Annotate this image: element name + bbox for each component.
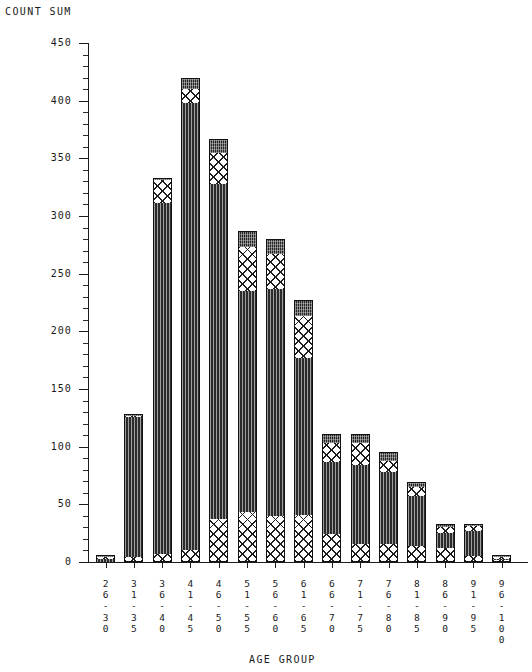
bar-segment-hatch (294, 316, 313, 358)
bar-36-40[interactable] (153, 178, 172, 562)
bar-segment-cap (124, 414, 143, 416)
bar-segment-hatch (492, 560, 511, 562)
bar-71-75[interactable] (351, 434, 370, 562)
x-label-char: - (323, 600, 341, 611)
bar-56-60[interactable] (266, 239, 285, 562)
y-tick-label: 300 (28, 210, 72, 221)
bar-segment-cap (266, 239, 285, 254)
y-tick-major (79, 447, 88, 448)
x-label-char: 2 (97, 578, 115, 589)
y-tick-label: 150 (28, 383, 72, 394)
bar-86-90[interactable] (436, 524, 455, 562)
bar-segment-hatch (436, 527, 455, 533)
x-tick (106, 563, 107, 568)
x-label-char: 7 (380, 578, 398, 589)
bar-46-50[interactable] (209, 139, 228, 562)
y-tick-major (79, 158, 88, 159)
x-tick (332, 563, 333, 568)
x-label-char: - (464, 600, 482, 611)
bar-81-85[interactable] (407, 482, 426, 562)
bar-26-30[interactable] (96, 556, 115, 562)
x-tick-label: 66-70 (323, 578, 341, 634)
bar-segment-dark (124, 417, 143, 558)
y-tick-label: 0 (28, 556, 72, 567)
x-tick (502, 563, 503, 568)
bar-segment-cap (153, 178, 172, 180)
bar-segment-hatch (407, 546, 426, 562)
y-tick-major (79, 274, 88, 275)
bar-segment-dark (266, 289, 285, 516)
x-label-char: 5 (238, 578, 256, 589)
x-tick-label: 61-65 (295, 578, 313, 634)
bar-segment-hatch (209, 153, 228, 184)
x-tick-label: 91-95 (464, 578, 482, 634)
y-tick-major (79, 389, 88, 390)
bar-segment-hatch (322, 534, 341, 562)
bar-segment-hatch (238, 247, 257, 291)
bar-66-70[interactable] (322, 434, 341, 562)
y-tick-label: 50 (28, 498, 72, 509)
x-tick-label: 96-100 (493, 578, 511, 645)
bar-segment-hatch (209, 519, 228, 562)
x-label-char: 5 (408, 623, 426, 634)
y-tick-label: 400 (28, 95, 72, 106)
bars-plot-area (88, 43, 528, 562)
x-label-char: - (266, 600, 284, 611)
x-tick-label: 51-55 (238, 578, 256, 634)
x-label-char: 6 (380, 589, 398, 600)
x-label-char: 6 (97, 589, 115, 600)
x-tick (389, 563, 390, 568)
bar-segment-dark (294, 358, 313, 515)
bar-segment-dark (181, 103, 200, 550)
x-label-char: 6 (436, 589, 454, 600)
y-tick-label: 450 (28, 37, 72, 48)
bar-segment-cap (492, 555, 511, 557)
x-label-char: 6 (323, 589, 341, 600)
bar-segment-cap (238, 231, 257, 247)
x-tick-label: 76-80 (380, 578, 398, 634)
x-label-char: 0 (493, 623, 511, 634)
x-tick-label: 86-90 (436, 578, 454, 634)
x-label-char: 6 (493, 589, 511, 600)
x-label-char: 5 (295, 623, 313, 634)
x-label-char: 0 (266, 623, 284, 634)
x-label-char: 4 (181, 612, 199, 623)
x-tick (219, 563, 220, 568)
x-label-char: 0 (97, 623, 115, 634)
bar-segment-hatch (238, 512, 257, 562)
bar-segment-dark (464, 531, 483, 556)
bar-segment-hatch (464, 556, 483, 562)
x-tick-label: 31-35 (125, 578, 143, 634)
bar-91-95[interactable] (464, 524, 483, 562)
x-label-char: 5 (210, 612, 228, 623)
y-tick-major (79, 101, 88, 102)
x-label-char: 8 (380, 612, 398, 623)
bar-segment-hatch (379, 461, 398, 473)
x-label-char: 5 (351, 623, 369, 634)
x-label-char: - (210, 600, 228, 611)
bar-segment-dark (209, 184, 228, 520)
bar-segment-cap (209, 139, 228, 153)
x-label-char: 0 (436, 623, 454, 634)
bar-segment-cap (181, 78, 200, 90)
bar-segment-cap (407, 482, 426, 487)
bar-segment-hatch (153, 180, 172, 203)
y-tick-label: 200 (28, 325, 72, 336)
bar-segment-dark (436, 533, 455, 548)
bar-61-65[interactable] (294, 300, 313, 562)
bar-96-100[interactable] (492, 556, 511, 562)
x-tick-label: 46-50 (210, 578, 228, 634)
x-label-char: 5 (238, 612, 256, 623)
bar-76-80[interactable] (379, 452, 398, 562)
x-label-char: 5 (266, 578, 284, 589)
x-label-char: 7 (351, 578, 369, 589)
bar-segment-cap (322, 434, 341, 443)
bar-segment-hatch (351, 544, 370, 562)
bar-segment-cap (379, 452, 398, 460)
bar-segment-dark (153, 203, 172, 554)
bar-51-55[interactable] (238, 231, 257, 562)
x-label-char: 9 (464, 612, 482, 623)
bar-41-45[interactable] (181, 78, 200, 562)
x-label-char: 3 (153, 578, 171, 589)
bar-31-35[interactable] (124, 414, 143, 562)
